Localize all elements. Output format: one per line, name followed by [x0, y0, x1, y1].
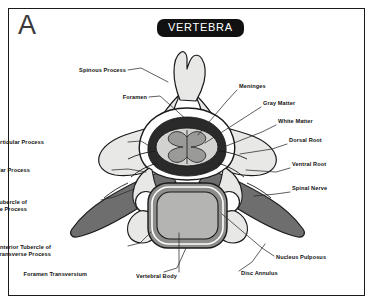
label-text: Inferior Articular Process — [0, 139, 44, 146]
label-gray-matter: Gray Matter — [263, 100, 295, 107]
figure-panel: A VERTEBRA — [0, 0, 375, 306]
label-spinous-process: Spinous Process — [79, 67, 126, 74]
label-text: Foramen — [123, 94, 147, 101]
label-meninges: Meninges — [239, 83, 266, 90]
label-foramen-transversium: Foramen Transversium — [23, 271, 87, 278]
label-text: Disc Annulus — [241, 270, 278, 277]
label-foramen: Foramen — [123, 94, 147, 101]
label-text-line2: Transverse Process — [0, 251, 51, 258]
label-disc-annulus: Disc Annulus — [241, 270, 278, 277]
label-text: Spinal Nerve — [292, 185, 327, 192]
label-posterior-tubercle: Posterior Tubercle ofTransverse Process — [0, 199, 27, 213]
disc-annulus-leader — [239, 244, 265, 271]
label-text: White Matter — [278, 118, 313, 125]
label-text: Meninges — [239, 83, 266, 90]
label-white-matter: White Matter — [278, 118, 313, 125]
label-vertebral-body: Vertebral Body — [136, 273, 177, 280]
label-dorsal-root: Dorsal Root — [289, 137, 322, 144]
label-text: Anterior Tubercle of — [0, 244, 51, 251]
label-text-line2: Transverse Process — [0, 206, 27, 213]
label-text: Spinous Process — [79, 67, 126, 74]
label-text: Posterior Tubercle of — [0, 199, 27, 206]
label-text: Superior Articular Process — [0, 167, 30, 174]
label-text: Foramen Transversium — [23, 271, 87, 278]
label-ventral-root: Ventral Root — [292, 161, 326, 168]
label-text: Nucleus Pulposus — [276, 254, 326, 261]
label-anterior-tubercle: Anterior Tubercle ofTransverse Process — [0, 244, 51, 258]
label-inferior-articular-process: Inferior Articular Process — [0, 139, 44, 146]
vertebra-artwork — [71, 52, 305, 248]
spinous-process-leader — [128, 68, 168, 82]
label-text: Ventral Root — [292, 161, 326, 168]
label-text: Vertebral Body — [136, 273, 177, 280]
label-text: Dorsal Root — [289, 137, 322, 144]
foramen-transversium-leader — [164, 248, 186, 272]
label-superior-articular-process: Superior Articular Process — [0, 167, 30, 174]
label-text: Gray Matter — [263, 100, 295, 107]
nucleus-pulposus — [157, 192, 218, 239]
label-spinal-nerve: Spinal Nerve — [292, 185, 327, 192]
spinous-process — [174, 52, 205, 101]
label-nucleus-pulposus: Nucleus Pulposus — [276, 254, 326, 261]
